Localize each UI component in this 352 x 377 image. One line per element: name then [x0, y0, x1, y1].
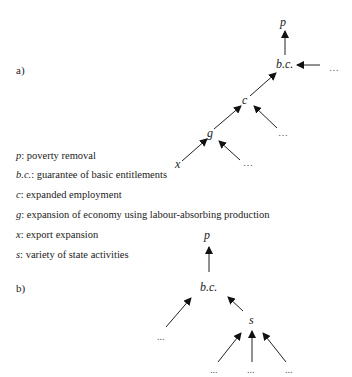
legend-text: : variety of state activities: [20, 249, 128, 260]
arrow-ellipsis-to-bc-b: [166, 298, 191, 327]
arrow-ellipsis3-to-s: [263, 333, 286, 362]
legend-item-c: c: expanded employment: [16, 189, 122, 201]
legend-text: : export expansion: [21, 229, 99, 240]
arrow-ellipsis-to-g: [219, 141, 240, 160]
diagram-a-label: a): [16, 64, 25, 77]
legend-text: : expansion of economy using labour-abso…: [21, 209, 269, 220]
node-ellipsis-s1-b: ...: [210, 365, 218, 375]
arrow-ellipsis1-to-s: [218, 333, 241, 362]
node-ellipsis-g-a: …: [243, 158, 253, 168]
node-p-b: p: [204, 229, 210, 242]
node-ellipsis-c-a: …: [278, 128, 288, 138]
node-p-a: p: [280, 16, 286, 29]
arrow-g-to-c: [214, 106, 241, 129]
node-ellipsis-bc-a: …: [329, 63, 339, 73]
legend-text: : expanded employment: [21, 189, 122, 200]
node-s-b: s: [249, 314, 254, 327]
node-ellipsis-s2-b: ...: [247, 365, 255, 375]
arrow-x-to-g: [182, 139, 207, 161]
node-bc-b: b.c.: [200, 281, 217, 294]
node-g-a: g: [207, 127, 213, 140]
diagram-b-label: b): [16, 282, 25, 295]
arrow-ellipsis-to-c: [254, 106, 277, 128]
legend-item-s: s: variety of state activities: [16, 249, 129, 261]
legend-text: : guarantee of basic entitlements: [31, 169, 167, 180]
legend-text: : poverty removal: [21, 150, 96, 161]
node-ellipsis-s3-b: ...: [285, 365, 293, 375]
legend-key: b.c.: [16, 169, 31, 180]
legend-item-g: g: expansion of economy using labour-abs…: [16, 209, 270, 221]
legend-item-x: x: export expansion: [16, 229, 98, 241]
legend-item-p: p: poverty removal: [16, 150, 96, 162]
node-ellipsis-bc-b: ...: [157, 332, 165, 342]
node-c-a: c: [242, 94, 247, 107]
arrow-c-to-bc: [250, 73, 276, 96]
arrow-s-to-bc-b: [228, 297, 243, 311]
node-x-a: x: [175, 158, 180, 171]
legend-item-bc: b.c.: guarantee of basic entitlements: [16, 169, 167, 181]
node-bc-a: b.c.: [276, 58, 293, 71]
